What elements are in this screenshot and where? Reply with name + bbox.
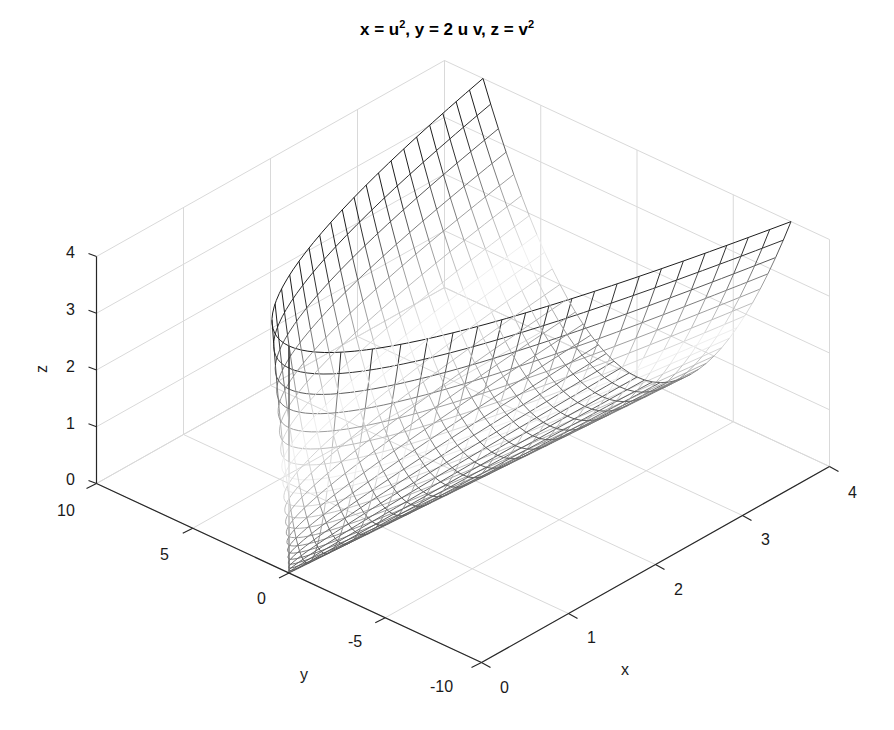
z-tick [89,481,97,484]
surface-mesh [272,78,791,573]
z-axis-label: z [33,365,51,373]
y-tick-label: -10 [430,678,453,696]
x-axis-label: x [621,661,629,679]
z-tick-label: 0 [66,471,75,489]
y-axis-label: y [300,666,308,684]
z-tick [89,424,97,427]
z-tick-label: 3 [66,301,75,319]
x-tick [830,467,839,472]
x-tick-label: 2 [674,581,683,599]
x-tick [656,565,665,570]
y-tick [87,484,97,489]
y-tick-label: 10 [57,502,75,520]
y-tick [183,528,193,533]
figure: x = u2, y = 2 u v, z = v2 4 3 2 1 0 z 10… [0,0,894,730]
x-tick [482,663,491,668]
x-tick-label: 4 [848,484,857,502]
y-tick-label: -5 [348,633,362,651]
y-tick [279,573,289,578]
z-tick-label: 2 [66,358,75,376]
z-tick [89,367,97,370]
x-tick-label: 0 [500,679,509,697]
z-tick-label: 1 [66,415,75,433]
z-tick [89,254,97,257]
x-tick-label: 1 [587,629,596,647]
z-tick [89,310,97,313]
plot-area[interactable] [0,0,894,730]
x-tick [743,516,752,521]
z-tick-label: 4 [66,244,75,262]
y-tick [375,618,385,623]
y-tick [472,663,482,668]
x-tick-label: 3 [761,531,770,549]
x-tick [569,614,578,619]
y-tick-label: 5 [160,546,169,564]
y-tick-label: 0 [257,590,266,608]
